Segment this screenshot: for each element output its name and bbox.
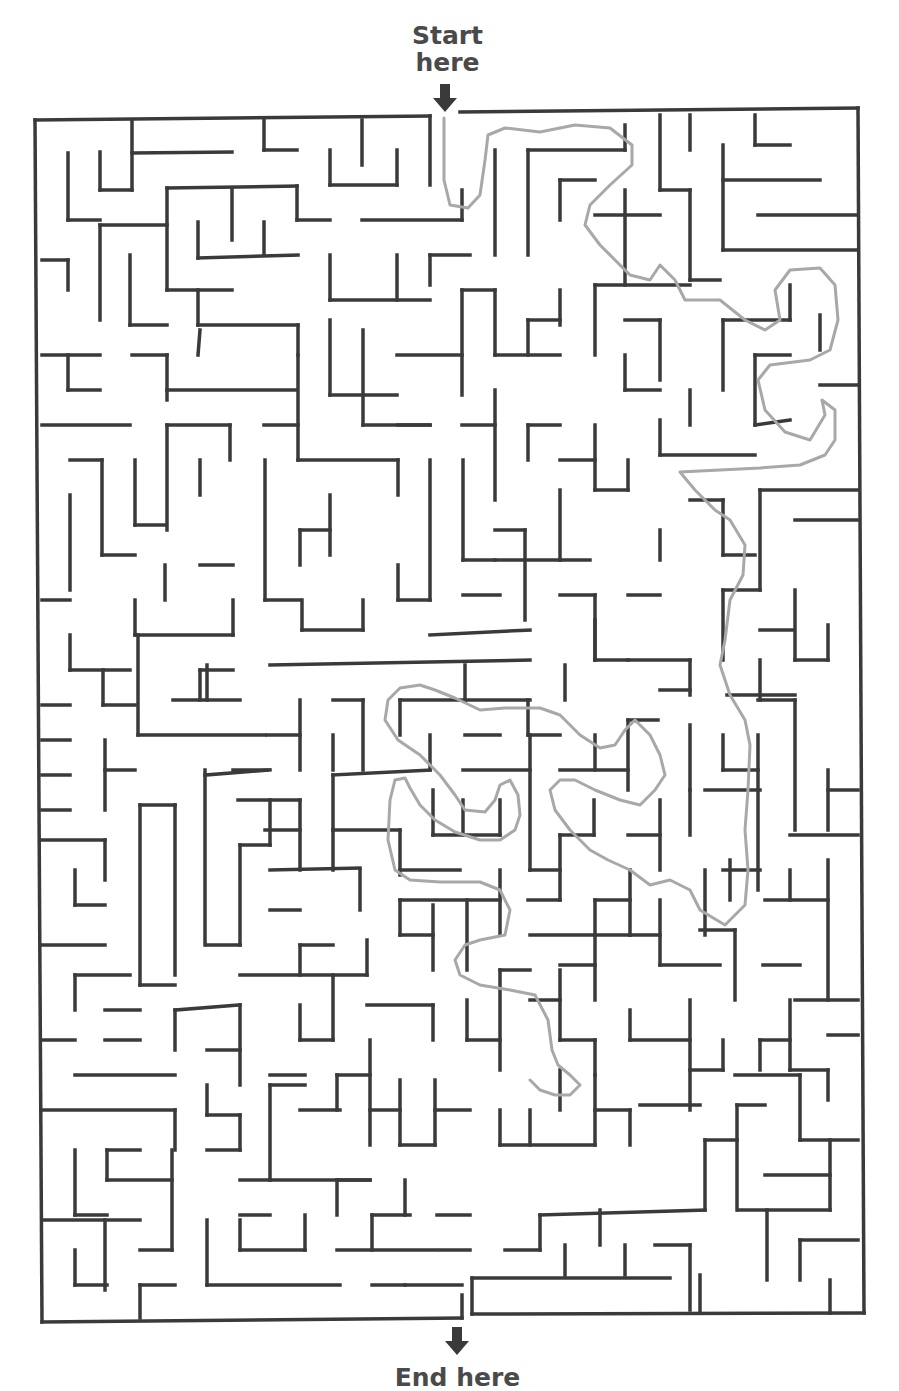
maze-board[interactable] — [0, 0, 899, 1391]
maze-wall — [42, 1318, 462, 1322]
maze-wall — [460, 108, 858, 112]
maze-wall — [430, 630, 530, 635]
pencil-solution-path — [385, 118, 838, 1095]
maze-wall — [175, 1005, 240, 1010]
end-label: End here — [370, 1364, 545, 1391]
start-arrow-icon — [433, 84, 457, 112]
maze-wall — [132, 152, 232, 153]
end-arrow-icon — [445, 1327, 469, 1355]
maze-wall — [540, 1210, 705, 1215]
maze-walls — [35, 108, 864, 1322]
maze-wall — [472, 1313, 864, 1314]
maze-wall — [333, 770, 430, 775]
maze-wall — [270, 868, 360, 870]
maze-wall — [198, 330, 200, 355]
maze-wall — [858, 108, 864, 1313]
maze-wall — [35, 116, 430, 120]
maze-wall — [198, 255, 298, 258]
maze-wall — [755, 420, 790, 425]
maze-wall — [270, 660, 530, 665]
maze-wall — [35, 120, 42, 1322]
maze-wall — [205, 770, 270, 775]
